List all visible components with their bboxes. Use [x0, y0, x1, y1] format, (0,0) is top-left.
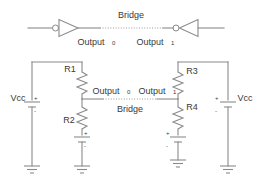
bottom-equivalent-circuit: + - Vcc R1 — [10, 62, 253, 173]
bottom-output1-label: Output — [138, 86, 166, 96]
left-inverter-bubble-icon — [53, 25, 59, 31]
bottom-output0-label: Output — [92, 86, 120, 96]
right-vcc-ground-icon — [220, 166, 236, 173]
top-output1-label: Output — [136, 37, 164, 47]
top-output1-subscript: 1 — [171, 40, 175, 46]
top-output0-subscript: 0 — [112, 40, 116, 46]
right-vcc-battery-symbol: + - — [215, 95, 236, 114]
left-battery-plus-sign: + — [34, 95, 38, 101]
right-battery-plus-sign: + — [215, 95, 219, 101]
bottom-bridge-label: Bridge — [117, 104, 143, 114]
resistor-r3-label: R3 — [186, 66, 198, 76]
bottom-output0-subscript: 0 — [127, 89, 131, 95]
left-battery-minus-sign: - — [34, 108, 36, 114]
top-inverter-pair: Bridge Output 0 Output 1 — [28, 10, 224, 47]
top-bridge-label: Bridge — [118, 10, 144, 20]
left-inverter-triangle-icon — [59, 20, 78, 37]
top-output0-label: Output — [77, 37, 105, 47]
resistor-r1-symbol — [77, 62, 87, 99]
left-divider-battery-minus-sign: - — [84, 143, 86, 149]
right-vcc-label: Vcc — [237, 93, 253, 103]
r2-zigzag — [77, 107, 87, 129]
right-battery-minus-sign: - — [215, 108, 217, 114]
circuit-schematic-canvas: Bridge Output 0 Output 1 + - — [0, 0, 260, 186]
resistor-r1-label: R1 — [64, 64, 76, 74]
right-divider-battery-symbol: + - — [166, 130, 186, 149]
left-divider-ground-icon — [74, 166, 90, 173]
resistor-r4-label: R4 — [186, 102, 198, 112]
resistor-r2-label: R2 — [63, 115, 75, 125]
resistor-r4-symbol — [173, 99, 183, 135]
r4-zigzag — [173, 107, 183, 129]
bottom-output1-subscript: 1 — [173, 89, 177, 95]
right-divider-ground-icon — [170, 160, 186, 167]
right-inverter-bubble-icon — [173, 25, 179, 31]
schematic-diagram: Bridge Output 0 Output 1 + - — [0, 0, 260, 186]
right-divider-battery-minus-sign: - — [166, 143, 168, 149]
right-divider-battery-plus-sign: + — [166, 130, 170, 136]
r1-zigzag — [77, 72, 87, 94]
left-vcc-label: Vcc — [10, 93, 26, 103]
left-divider-battery-plus-sign: + — [84, 130, 88, 136]
left-vcc-ground-icon — [24, 166, 40, 173]
right-inverter-triangle-icon — [180, 20, 199, 37]
